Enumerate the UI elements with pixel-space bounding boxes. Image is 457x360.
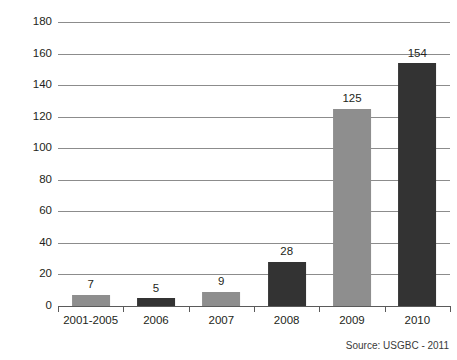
bar-group: 7 bbox=[58, 22, 123, 306]
bar-group: 9 bbox=[189, 22, 254, 306]
x-category-label: 2010 bbox=[385, 315, 450, 327]
x-category-label: 2009 bbox=[319, 315, 384, 327]
y-tick-label: 140 bbox=[6, 79, 52, 91]
bar-value-label: 9 bbox=[189, 276, 254, 288]
bar-group: 125 bbox=[319, 22, 384, 306]
x-axis-end-tick bbox=[58, 306, 59, 312]
y-tick-label: 180 bbox=[6, 16, 52, 28]
x-tick-mark bbox=[123, 306, 124, 312]
x-category-label: 2006 bbox=[123, 315, 188, 327]
x-tick-mark bbox=[254, 306, 255, 312]
y-tick-label: 20 bbox=[6, 268, 52, 280]
bar bbox=[202, 292, 240, 306]
bar bbox=[268, 262, 306, 306]
y-tick-label: 60 bbox=[6, 205, 52, 217]
bar-value-label: 5 bbox=[123, 283, 188, 295]
x-category-label: 2008 bbox=[254, 315, 319, 327]
x-tick-mark bbox=[319, 306, 320, 312]
x-category-label: 2001-2005 bbox=[58, 315, 123, 327]
y-tick-label: 0 bbox=[6, 300, 52, 312]
bar bbox=[398, 63, 436, 306]
y-tick-label: 100 bbox=[6, 142, 52, 154]
y-tick-label: 160 bbox=[6, 48, 52, 60]
x-category-label: 2007 bbox=[189, 315, 254, 327]
x-axis-end-tick bbox=[450, 306, 451, 312]
bar-group: 28 bbox=[254, 22, 319, 306]
y-tick-label: 80 bbox=[6, 174, 52, 186]
bars-layer: 75928125154 bbox=[58, 22, 450, 306]
bar-value-label: 7 bbox=[58, 279, 123, 291]
x-tick-mark bbox=[385, 306, 386, 312]
y-tick-label: 120 bbox=[6, 111, 52, 123]
bar-value-label: 125 bbox=[319, 93, 384, 105]
source-note: Source: USGBC - 2011 bbox=[346, 340, 449, 351]
bar-value-label: 154 bbox=[385, 48, 450, 60]
bar bbox=[137, 298, 175, 306]
bar bbox=[333, 109, 371, 306]
bar bbox=[72, 295, 110, 306]
bar-group: 154 bbox=[385, 22, 450, 306]
bar-value-label: 28 bbox=[254, 246, 319, 258]
x-tick-mark bbox=[189, 306, 190, 312]
bar-chart: Millions square feet 1801601401201008060… bbox=[0, 0, 457, 360]
x-axis: 2001-200520062007200820092010 bbox=[58, 306, 450, 336]
y-tick-label: 40 bbox=[6, 237, 52, 249]
bar-group: 5 bbox=[123, 22, 188, 306]
